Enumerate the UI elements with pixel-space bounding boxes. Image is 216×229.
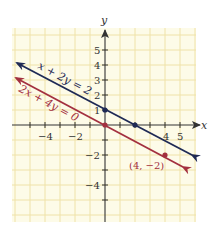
point-label-4-neg2: (4, −2)	[129, 160, 164, 171]
point-2-0	[132, 122, 137, 127]
point-0-1	[102, 107, 107, 112]
x-tick-label: 5	[177, 131, 183, 142]
y-tick-label: −4	[85, 180, 100, 191]
y-tick-label: 5	[94, 45, 100, 56]
x-axis-label: x	[201, 119, 208, 132]
y-tick-label: 4	[94, 60, 100, 71]
y-tick-label: 2	[94, 90, 100, 101]
graph-figure: x y −4 −2 4 5 5 4 3 2 1 −2 −4 x + 2y = 2…	[0, 0, 216, 229]
y-tick-label: 3	[94, 75, 100, 86]
point-4-neg2	[162, 152, 167, 157]
y-tick-label: −2	[85, 150, 100, 161]
y-axis-label: y	[100, 14, 108, 27]
x-tick-label: −2	[68, 131, 83, 142]
x-tick-label: −4	[38, 131, 53, 142]
point-origin	[102, 122, 107, 127]
